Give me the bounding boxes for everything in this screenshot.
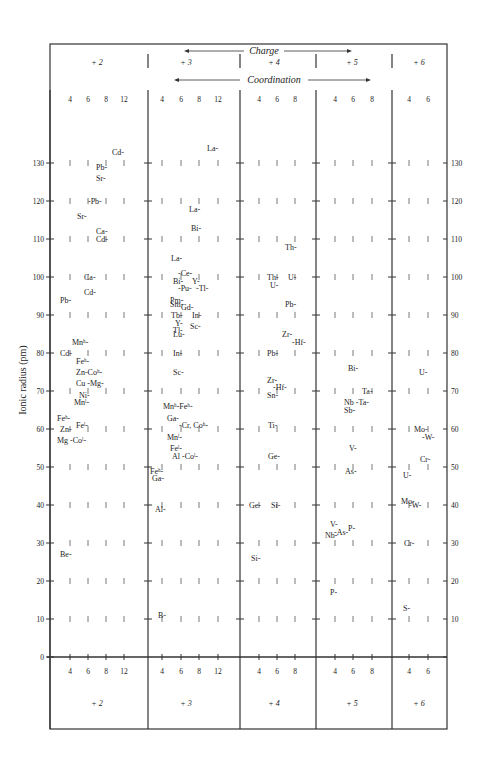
y-tick-label-right: 70 — [451, 387, 459, 396]
y-tick-label-right: 90 — [451, 311, 459, 320]
coordination-header-label: 4 — [257, 95, 261, 104]
coordination-footer-label: 6 — [426, 667, 430, 676]
coordination-footer-label: 8 — [370, 667, 374, 676]
y-tick-label: 110 — [33, 235, 44, 244]
coordination-footer-label: 8 — [197, 667, 201, 676]
y-tick-label-right: 20 — [451, 577, 459, 586]
y-tick-label-right: 60 — [451, 425, 459, 434]
arrow-right-icon — [366, 78, 371, 82]
arrow-right-icon — [347, 49, 352, 53]
coordination-ticks — [70, 160, 428, 660]
coordination-title: Coordination — [247, 74, 301, 85]
ion-label: Bi- — [348, 364, 359, 373]
y-tick-label-right: 80 — [451, 349, 459, 358]
ion-label: Sn- — [267, 391, 278, 400]
y-tick-label: 70 — [37, 387, 45, 396]
ion-label: Mg -Coˡ- — [57, 436, 86, 445]
ion-label: Sc- — [190, 322, 201, 331]
y-tick-label-right: 10 — [451, 615, 459, 624]
coordination-header-label: 8 — [197, 95, 201, 104]
y-tick-label-right: 130 — [451, 159, 463, 168]
y-axis-title: Ionic radius (pm) — [17, 345, 29, 414]
coordination-header-label: 8 — [370, 95, 374, 104]
charge-header-label: + 2 — [91, 58, 102, 67]
ion-label: Al- — [155, 505, 166, 514]
ion-label: -Pu- — [178, 284, 192, 293]
y-tick-label: 0 — [40, 653, 44, 662]
y-tick-label: 90 — [37, 311, 45, 320]
coordination-footer-label: 6 — [275, 667, 279, 676]
y-tick-label: 20 — [37, 577, 45, 586]
ion-label: Ca- — [84, 273, 96, 282]
ion-label: Cd- — [96, 235, 108, 244]
ion-label: U- — [419, 368, 428, 377]
ion-label: Lu- — [173, 330, 185, 339]
ion-label: Ta- — [362, 387, 373, 396]
ion-label: Sb- — [344, 406, 355, 415]
ion-label: Cd- — [84, 288, 96, 297]
ion-label: -Cr, Coʰ- — [179, 421, 208, 430]
ion-label: B- — [158, 611, 166, 620]
coordination-header-label: 6 — [179, 95, 183, 104]
ion-label: Zn-Coʰ- — [76, 368, 102, 377]
ion-label: Mnˡ- — [167, 433, 182, 442]
ion-label: Zr- — [282, 330, 292, 339]
ion-label: Cd- — [60, 349, 72, 358]
coordination-footer-label: 8 — [293, 667, 297, 676]
ion-label: Si- — [251, 554, 261, 563]
ion-label: Al -Coˡ- — [172, 452, 198, 461]
coordination-header-label: 4 — [333, 95, 337, 104]
coordination-footer-label: 12 — [214, 667, 222, 676]
charge-footer-label: + 5 — [346, 699, 357, 708]
coordination-footer-label: 6 — [179, 667, 183, 676]
chart-footer: 46812+ 246812+ 3468+ 4468+ 546+ 6 — [68, 667, 430, 708]
charge-header-label: + 3 — [180, 58, 191, 67]
y-tick-label: 10 — [37, 615, 45, 624]
coordination-footer-label: 6 — [86, 667, 90, 676]
y-tick-label: 130 — [33, 159, 45, 168]
charge-header-label: + 6 — [413, 58, 424, 67]
coordination-header-label: 8 — [104, 95, 108, 104]
ion-label: Pb- — [267, 349, 278, 358]
ion-label: In- — [173, 349, 183, 358]
ion-label: Bi- — [191, 224, 202, 233]
ion-label: Ge- — [249, 501, 261, 510]
coordination-footer-label: 6 — [351, 667, 355, 676]
chart-header: ChargeCoordination+ 246812+ 346812+ 4468… — [68, 45, 430, 104]
ion-label: Zn- — [60, 425, 72, 434]
y-tick-label-right: 30 — [451, 539, 459, 548]
ion-label: Cr- — [420, 455, 431, 464]
y-tick-label: 100 — [33, 273, 45, 282]
ion-label: P- — [330, 588, 337, 597]
ion-label: V- — [349, 444, 357, 453]
y-tick-label-right: 40 — [451, 501, 459, 510]
coordination-header-label: 4 — [160, 95, 164, 104]
ion-label: U- — [288, 273, 297, 282]
ion-label: Nb- — [325, 531, 338, 540]
charge-header-label: + 5 — [346, 58, 357, 67]
y-tick-label: 60 — [37, 425, 45, 434]
coordination-footer-label: 4 — [407, 667, 411, 676]
coordination-footer-label: 4 — [257, 667, 261, 676]
ion-label: -Pb- — [88, 197, 102, 206]
ion-label: Cr- — [404, 539, 415, 548]
ion-label: S- — [403, 604, 410, 613]
coordination-header-label: 6 — [275, 95, 279, 104]
ion-label: -Hf- — [292, 338, 306, 347]
ion-label: Ga- — [152, 474, 164, 483]
arrow-left-icon — [174, 78, 179, 82]
ion-label: Feˡ- — [76, 421, 88, 430]
y-tick-label-right: 110 — [451, 235, 462, 244]
charge-footer-label: + 3 — [180, 699, 191, 708]
coordination-header-label: 4 — [68, 95, 72, 104]
coordination-footer-label: 12 — [120, 667, 128, 676]
ion-label: Si- — [271, 501, 281, 510]
ion-label: Pb- — [96, 163, 107, 172]
ion-label: Ti- — [268, 421, 278, 430]
charge-header-label: + 4 — [268, 58, 279, 67]
ion-label: Sr- — [77, 212, 87, 221]
coordination-header-label: 12 — [214, 95, 222, 104]
y-tick-label: 50 — [37, 463, 45, 472]
chart-frame — [47, 44, 447, 729]
charge-footer-label: + 4 — [268, 699, 279, 708]
